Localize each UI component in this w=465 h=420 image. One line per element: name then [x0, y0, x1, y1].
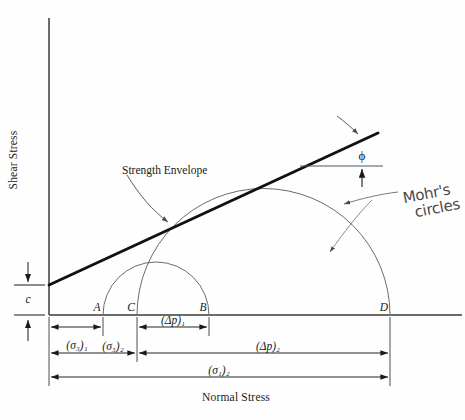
axis-group: [49, 18, 462, 315]
mohr-circle-1: [103, 262, 209, 315]
phi-angle-group: [300, 166, 383, 187]
strength-envelope-label: Strength Envelope: [122, 165, 207, 177]
dim-label-sigma-3-2: (σ₃)₂: [102, 341, 123, 353]
mohr-circles-group: [103, 189, 390, 315]
mohr-circles-leader-2: [330, 200, 372, 252]
mohr-circles-leader: [344, 192, 398, 204]
mohr-circles-figure: Shear Stress Normal Stress Strength Enve…: [0, 0, 465, 420]
cohesion-label: c: [25, 294, 30, 306]
point-label-C: C: [127, 302, 135, 314]
dim-label-sigma-1-2: (σ₁)₂: [208, 365, 229, 377]
dim-label-delta-p-2: (Δp)₂: [256, 341, 280, 353]
x-axis-title: Normal Stress: [202, 392, 270, 404]
envelope-top-leader: [337, 116, 358, 134]
friction-angle-label: ϕ: [359, 149, 366, 162]
mohr-circle-2: [137, 189, 390, 315]
point-label-A: A: [93, 302, 100, 314]
y-axis-title: Shear Stress: [8, 131, 20, 190]
diagram-canvas: [0, 0, 465, 420]
point-label-D: D: [380, 302, 388, 314]
strength-envelope-line: [49, 133, 378, 285]
dim-label-delta-p-1: (Δp)₁: [161, 315, 185, 327]
dim-label-sigma-3-1: (σ₃)₁: [66, 340, 87, 352]
strength-envelope-leader: [127, 175, 168, 222]
point-label-B: B: [199, 302, 206, 314]
